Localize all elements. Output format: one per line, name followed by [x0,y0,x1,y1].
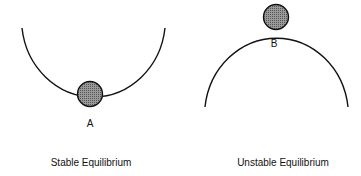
caption-unstable: Unstable Equilibrium [237,157,329,168]
point-label-b: B [271,38,278,49]
equilibrium-diagram [0,0,361,176]
caption-stable: Stable Equilibrium [51,157,132,168]
ball-a [78,82,103,107]
ball-b [264,5,289,30]
point-label-a: A [87,118,94,129]
